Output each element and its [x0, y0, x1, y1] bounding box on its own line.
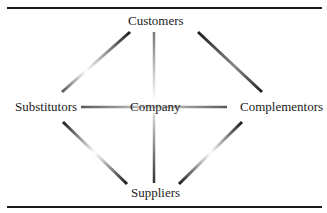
edge-customers-substitutors — [62, 32, 130, 92]
node-substitutors: Substitutors — [15, 99, 77, 114]
node-complementors: Complementors — [240, 99, 323, 114]
edge-customers-complementors — [198, 32, 262, 92]
node-company: Company — [130, 99, 181, 114]
edge-complementors-suppliers — [179, 122, 242, 184]
node-customers: Customers — [128, 13, 184, 28]
edge-substitutors-suppliers — [63, 122, 127, 184]
node-suppliers: Suppliers — [131, 185, 180, 200]
bottom-rule — [7, 206, 322, 208]
